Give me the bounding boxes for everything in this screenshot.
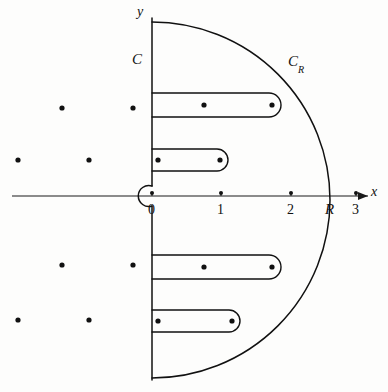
x-axis-label: x	[371, 185, 377, 199]
pole-dot	[201, 102, 206, 107]
x-tick-label-2: 2	[287, 203, 294, 217]
pole-dot	[155, 157, 160, 162]
pole-dot	[130, 105, 135, 110]
pole-dot	[201, 264, 206, 269]
x-tick-label-3: 3	[352, 203, 359, 217]
branch-cut-upper-1	[152, 93, 281, 117]
contour-arc-CR	[152, 22, 330, 378]
pole-dot	[269, 102, 274, 107]
contour-label-CR-subscript: R	[298, 64, 304, 75]
x-tick-label-0: 0	[148, 203, 155, 217]
pole-dot	[15, 317, 20, 322]
x-tick-dot-0	[150, 191, 154, 195]
pole-dot	[59, 105, 64, 110]
branch-cut-lower-2	[152, 310, 240, 332]
pole-dot	[86, 157, 91, 162]
x-tick-dot-2	[289, 191, 293, 195]
pole-dot	[269, 264, 274, 269]
pole-dot	[86, 317, 91, 322]
branch-cut-upper-2	[152, 149, 228, 171]
contour-label-C: C	[132, 52, 142, 67]
y-axis-label: y	[137, 5, 143, 19]
contour-figure: y x C CR 0 1 2 3 R	[0, 0, 388, 392]
x-tick-label-1: 1	[217, 203, 224, 217]
x-tick-dot-1	[219, 191, 223, 195]
branch-cut-lower-1	[152, 255, 281, 279]
x-tick-dot-3	[354, 191, 358, 195]
x-axis-arrowhead	[358, 192, 368, 200]
pole-dot	[59, 262, 64, 267]
pole-dot	[229, 318, 234, 323]
pole-dot	[217, 157, 222, 162]
pole-dot	[130, 262, 135, 267]
pole-dot	[155, 318, 160, 323]
radius-label-R: R	[325, 202, 334, 217]
contour-label-CR: CR	[288, 54, 304, 72]
contour-diagram-canvas	[0, 0, 388, 392]
contour-label-CR-main: C	[288, 53, 298, 69]
pole-dot	[15, 157, 20, 162]
